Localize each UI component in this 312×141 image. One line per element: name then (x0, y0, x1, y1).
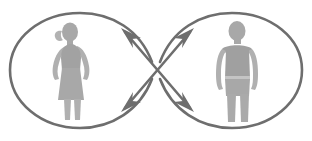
male-left-arm-shape (216, 49, 226, 90)
arrow-bottom-right-head (174, 92, 194, 112)
female-right-leg-shape (74, 99, 81, 120)
male-right-leg-shape (240, 94, 249, 122)
female-head-shape (62, 23, 78, 42)
male-torso-shape (225, 50, 250, 78)
female-skirt-shape (58, 68, 84, 100)
male-neck-shape (234, 39, 241, 44)
male-trousers-shape (225, 79, 250, 96)
arrow-top-right (174, 28, 194, 48)
female-ponytail-shape (55, 31, 63, 41)
male-head-shape (229, 21, 246, 41)
infinity-loop-diagram (0, 0, 312, 141)
female-figure (53, 23, 90, 121)
male-figure (216, 21, 258, 122)
female-torso-shape (61, 44, 81, 70)
female-left-leg-shape (64, 99, 71, 120)
arrow-top-right-head (174, 28, 194, 48)
arrow-bottom-right (174, 92, 194, 112)
left-loop-path (10, 13, 152, 128)
male-left-leg-shape (227, 94, 236, 122)
diagram-canvas (0, 0, 312, 141)
